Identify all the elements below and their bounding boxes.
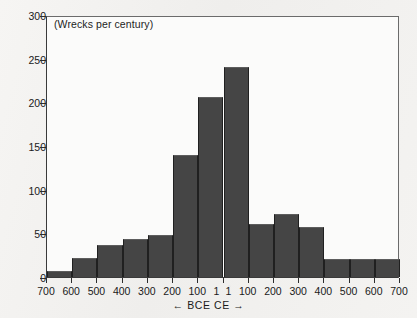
- x-tick-label: 500: [88, 285, 106, 297]
- x-tick-label: 100: [189, 285, 207, 297]
- x-tick-mark: [248, 278, 249, 283]
- x-tick-mark: [147, 278, 148, 283]
- y-tick-mark: [40, 191, 46, 192]
- x-tick-label: 700: [390, 285, 408, 297]
- x-tick-mark: [71, 278, 72, 283]
- x-tick-label: 1: [214, 285, 220, 297]
- chart-title: (Wrecks per century): [54, 18, 153, 30]
- bar: [123, 239, 148, 277]
- x-axis-caption: ← BCE CE →: [0, 299, 417, 311]
- x-tick-mark: [197, 278, 198, 283]
- chart-page: (Wrecks per century) 050100150200250300 …: [0, 0, 417, 318]
- x-tick-label: 600: [365, 285, 383, 297]
- x-tick-mark: [172, 278, 173, 283]
- bar: [173, 155, 198, 277]
- x-tick-label: 400: [113, 285, 131, 297]
- plot-frame: [46, 16, 399, 278]
- x-tick-label: 100: [239, 285, 257, 297]
- bar: [97, 245, 122, 277]
- x-tick-label: 300: [138, 285, 156, 297]
- plot-area: [47, 17, 398, 277]
- bar: [148, 235, 173, 277]
- x-tick-label: 400: [315, 285, 333, 297]
- bar: [324, 259, 349, 277]
- y-tick-mark: [40, 16, 46, 17]
- x-tick-label: 200: [163, 285, 181, 297]
- y-tick-mark: [40, 234, 46, 235]
- x-tick-mark: [349, 278, 350, 283]
- bar: [350, 259, 375, 277]
- bar: [47, 271, 72, 277]
- x-tick-mark: [273, 278, 274, 283]
- x-tick-mark: [122, 278, 123, 283]
- x-tick-mark: [399, 278, 400, 283]
- x-tick-mark: [223, 278, 224, 283]
- bar: [299, 227, 324, 277]
- y-axis: 050100150200250300: [0, 0, 46, 318]
- x-tick-mark: [96, 278, 97, 283]
- x-tick-label: 600: [62, 285, 80, 297]
- bar: [224, 67, 249, 277]
- x-tick-label: 300: [289, 285, 307, 297]
- x-tick-label: 1: [226, 285, 232, 297]
- y-tick-mark: [40, 60, 46, 61]
- x-tick-label: 500: [340, 285, 358, 297]
- x-tick-mark: [374, 278, 375, 283]
- x-tick-label: 200: [264, 285, 282, 297]
- x-tick-mark: [298, 278, 299, 283]
- bar: [249, 224, 274, 277]
- bar: [198, 97, 223, 277]
- bar: [72, 258, 97, 277]
- bar: [375, 259, 400, 277]
- x-tick-mark: [323, 278, 324, 283]
- y-tick-mark: [40, 103, 46, 104]
- y-tick-mark: [40, 147, 46, 148]
- x-tick-mark: [46, 278, 47, 283]
- bar: [274, 214, 299, 277]
- x-tick-label: 700: [37, 285, 55, 297]
